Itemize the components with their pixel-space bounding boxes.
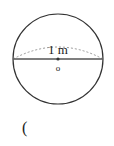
center-dot [56, 57, 59, 60]
sphere-diagram: 1 m o [0, 0, 114, 146]
center-label: o [56, 63, 61, 73]
answer-blank: ( [22, 119, 27, 137]
diameter-label: 1 m [48, 42, 68, 57]
